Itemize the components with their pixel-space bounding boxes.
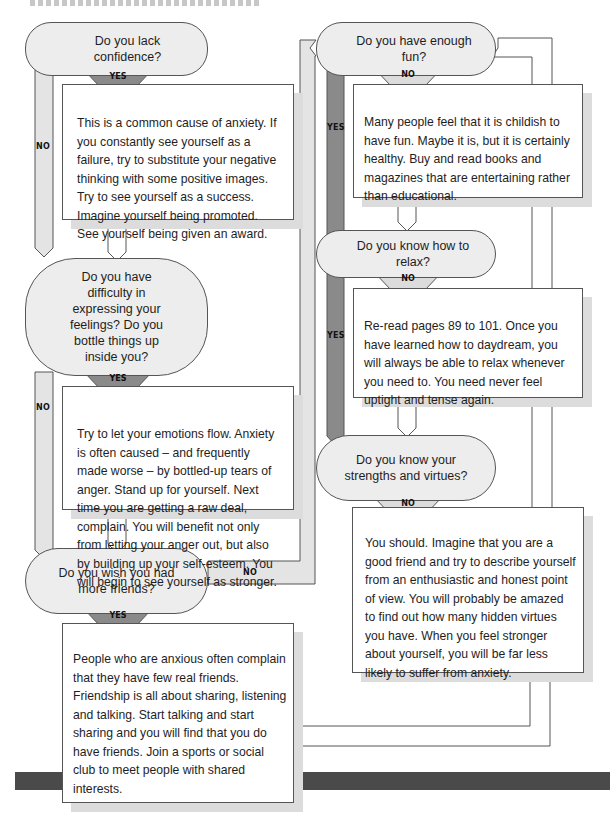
advice-text: Re-read pages 89 to 101. Once you have l…	[364, 319, 565, 407]
question-relax: Do you know how to relax?	[316, 230, 496, 278]
q3-yes-label: YES	[98, 611, 138, 620]
q1-yes-label: YES	[98, 72, 138, 81]
advice-text: This is a common cause of anxiety. If yo…	[77, 116, 277, 241]
question-strengths-virtues: Do you know your strengths and virtues?	[316, 435, 496, 501]
q3-no-label: NO	[243, 568, 257, 577]
question-text: Do you know how to relax?	[349, 238, 477, 270]
q1-no-label: NO	[36, 142, 50, 151]
q4-no-label: NO	[388, 70, 428, 79]
advice-box-confidence: This is a common cause of anxiety. If yo…	[62, 84, 294, 220]
advice-text: People who are anxious often complain th…	[73, 652, 286, 796]
q5-yes-arrow	[327, 272, 344, 445]
advice-box-relax: Re-read pages 89 to 101. Once you have l…	[353, 288, 583, 398]
q4-right-loop	[492, 38, 552, 85]
advice-text: Try to let your emotions flow. Anxiety i…	[77, 427, 277, 589]
q2-no-label: NO	[36, 403, 50, 412]
q5-yes-label: YES	[327, 331, 345, 340]
question-expressing-feelings: Do you have difficulty in expressing you…	[25, 258, 208, 376]
question-text: Do you have difficulty in expressing you…	[58, 269, 175, 365]
question-text: Do you know your strengths and virtues?	[339, 452, 473, 484]
advice-text: You should. Imagine that you are a good …	[365, 536, 576, 680]
advice-box-fun: Many people feel that it is childish to …	[353, 84, 583, 198]
q4-yes-arrow	[327, 68, 344, 245]
q2-no-arrow	[35, 372, 53, 559]
advice-text: Many people feel that it is childish to …	[364, 115, 570, 203]
q6-no-label: NO	[388, 499, 428, 508]
q1-no-arrow	[35, 70, 53, 257]
q4-yes-label: YES	[327, 123, 345, 132]
advice-box-feelings: Try to let your emotions flow. Anxiety i…	[62, 386, 294, 510]
q2-yes-label: YES	[98, 374, 138, 383]
question-lack-confidence: Do you lack confidence?	[25, 22, 208, 76]
question-text: Do you lack confidence?	[66, 33, 189, 65]
advice-box-strengths: You should. Imagine that you are a good …	[352, 507, 584, 673]
question-text: Do you have enough fun?	[351, 33, 477, 65]
advice-box-friends: People who are anxious often complain th…	[62, 623, 294, 803]
q5-no-label: NO	[388, 274, 428, 283]
question-enough-fun: Do you have enough fun?	[316, 22, 496, 76]
